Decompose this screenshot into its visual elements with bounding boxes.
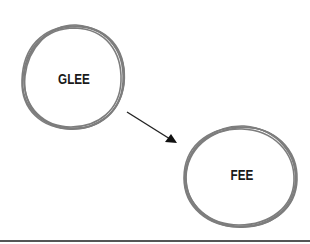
arrowhead-icon [165, 134, 177, 143]
arrow-line [127, 112, 170, 139]
diagram-canvas [0, 0, 310, 244]
edge-arrow [127, 112, 177, 143]
node-fee-label: FEE [219, 166, 266, 183]
node-glee-label: GLEE [51, 70, 98, 87]
